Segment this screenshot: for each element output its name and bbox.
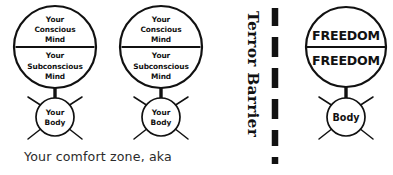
freedom-label-lower: FREEDOM xyxy=(312,53,380,68)
subconscious-line-1: Your xyxy=(45,51,65,60)
subconscious-line-2: Subconscious xyxy=(27,62,83,71)
conscious-line-3: Mind xyxy=(151,35,171,44)
conscious-line-2: Conscious xyxy=(141,25,183,34)
figure-middle: Your Conscious Mind Your Subconscious Mi… xyxy=(120,6,202,139)
figure-right: FREEDOM FREEDOM Body xyxy=(306,7,386,139)
freedom-label-upper: FREEDOM xyxy=(312,28,380,43)
conscious-line-1: Your xyxy=(151,15,171,24)
conscious-line-2: Conscious xyxy=(35,25,77,34)
conscious-line-1: Your xyxy=(45,15,65,24)
conscious-line-3: Mind xyxy=(45,35,65,44)
figure-left: Your Conscious Mind Your Subconscious Mi… xyxy=(14,6,96,139)
terror-barrier-label: Terror Barrier xyxy=(245,11,261,137)
subconscious-line-3: Mind xyxy=(151,72,171,81)
subconscious-line-2: Subconscious xyxy=(133,62,189,71)
subconscious-line-3: Mind xyxy=(45,72,65,81)
body-line-2: Body xyxy=(151,118,172,127)
body-line-1: Your xyxy=(151,108,171,117)
body-line-1: Your xyxy=(45,108,65,117)
body-circle xyxy=(142,98,180,136)
subconscious-line-1: Your xyxy=(151,51,171,60)
comfort-zone-caption: Your comfort zone, aka xyxy=(24,149,172,164)
body-label: Body xyxy=(332,112,360,123)
body-line-2: Body xyxy=(45,118,66,127)
body-circle xyxy=(36,98,74,136)
diagram-canvas: Your Conscious Mind Your Subconscious Mi… xyxy=(0,0,393,175)
